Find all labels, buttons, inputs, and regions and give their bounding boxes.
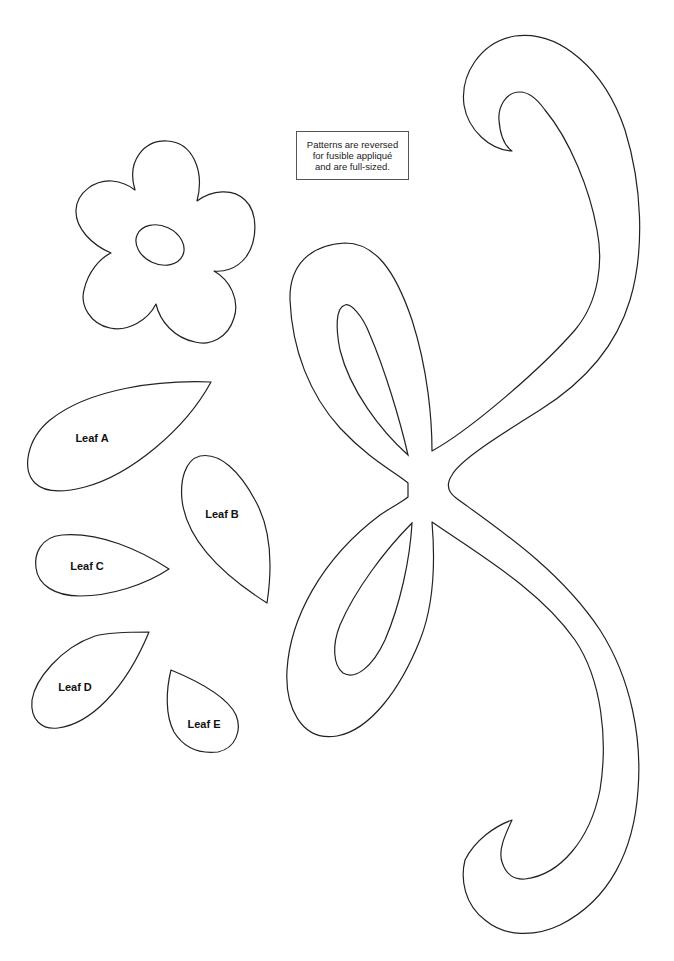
flower-shape: [76, 141, 255, 343]
leaf-b-label: Leaf B: [205, 508, 239, 520]
leaf-b-shape: [182, 455, 270, 603]
leaf-e-shape: [167, 670, 238, 752]
note-line-3: and are full-sized.: [315, 161, 390, 172]
leaf-d-label: Leaf D: [58, 681, 92, 693]
note-line-2: for fusible appliqué: [313, 150, 393, 161]
pattern-note-box: Patterns are reversed for fusible appliq…: [296, 131, 409, 180]
leaf-c-label: Leaf C: [70, 560, 104, 572]
leaf-a-label: Leaf A: [75, 432, 108, 444]
leaf-e-label: Leaf E: [187, 718, 220, 730]
note-line-1: Patterns are reversed: [307, 139, 398, 150]
